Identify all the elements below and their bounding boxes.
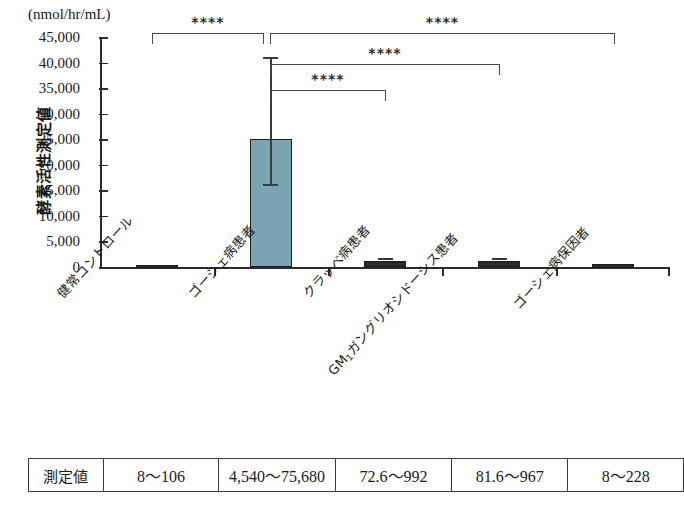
table-cell-gaucher-patient: 4,540〜75,680 xyxy=(219,459,336,492)
table-cell-kenjou-control: 8〜106 xyxy=(103,459,219,492)
y-axis-unit-label: (nmol/hr/mL) xyxy=(28,6,111,23)
significance-stars-3: **** xyxy=(270,45,500,61)
bar-krabbe-patient xyxy=(364,261,406,267)
y-tick-30000 xyxy=(99,114,108,116)
measurement-range-table: 測定値 8〜106 4,540〜75,680 72.6〜992 81.6〜967… xyxy=(28,458,684,492)
table-row-header: 測定値 xyxy=(29,459,104,492)
bar-gaucher-carrier xyxy=(592,264,634,268)
y-tick-45000 xyxy=(99,37,108,39)
y-tick-label-35000: 35,000 xyxy=(0,81,80,96)
significance-stars-4: **** xyxy=(270,71,386,87)
y-tick-label-30000: 30,000 xyxy=(0,107,80,122)
chart-figure: (nmol/hr/mL) 酵素活性測定値 45,000 40,000 35,00… xyxy=(0,0,684,516)
y-tick-20000 xyxy=(99,165,108,167)
y-tick-label-40000: 40,000 xyxy=(0,56,80,71)
y-tick-label-20000: 20,000 xyxy=(0,158,80,173)
x-tick-5 xyxy=(668,268,670,276)
y-tick-label-45000: 45,000 xyxy=(0,30,80,45)
significance-stars-2: **** xyxy=(270,14,615,30)
y-tick-label-15000: 15,000 xyxy=(0,183,80,198)
y-tick-label-5000: 5,000 xyxy=(0,234,80,249)
error-bar-gaucher-bottom-cap xyxy=(263,184,278,186)
y-tick-label-25000: 25,000 xyxy=(0,132,80,147)
x-axis-line xyxy=(100,267,670,269)
y-tick-35000 xyxy=(99,88,108,90)
significance-bracket-2: **** xyxy=(270,33,615,44)
y-tick-15000 xyxy=(99,190,108,192)
table-cell-gaucher-carrier: 8〜228 xyxy=(568,459,684,492)
y-tick-40000 xyxy=(99,63,108,65)
significance-bracket-1: **** xyxy=(152,33,264,44)
y-tick-10000 xyxy=(99,216,108,218)
y-tick-25000 xyxy=(99,139,108,141)
bar-kenjou-control xyxy=(136,265,178,268)
significance-stars-1: **** xyxy=(152,14,264,30)
y-tick-label-10000: 10,000 xyxy=(0,209,80,224)
x-tick-3 xyxy=(442,268,444,276)
error-bar-krabbe-top-cap xyxy=(378,258,393,260)
table-row: 測定値 8〜106 4,540〜75,680 72.6〜992 81.6〜967… xyxy=(29,459,684,492)
significance-bracket-4: **** xyxy=(270,90,386,101)
error-bar-gm1-top-cap xyxy=(492,258,507,260)
y-tick-0 xyxy=(99,267,108,269)
table-cell-gm1-gangliosidosis-patient: 81.6〜967 xyxy=(452,459,568,492)
table-cell-krabbe-patient: 72.6〜992 xyxy=(335,459,451,492)
bar-gm1-gangliosidosis-patient xyxy=(478,261,520,267)
